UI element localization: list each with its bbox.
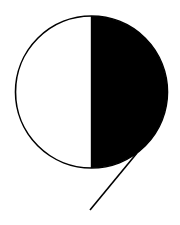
right-half-filled [92, 16, 168, 168]
nine-symbol-graphic [0, 0, 180, 225]
